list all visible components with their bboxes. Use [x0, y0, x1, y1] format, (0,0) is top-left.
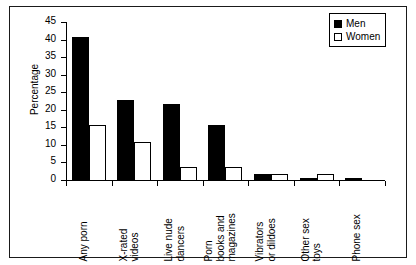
bar-group	[203, 22, 249, 181]
bar-group	[157, 22, 203, 181]
bar-women	[317, 174, 334, 181]
x-axis-label-line: Vibrators	[254, 222, 266, 262]
bar-men	[254, 174, 271, 181]
y-axis-tick-label: 40	[45, 33, 56, 44]
bar-men	[163, 104, 180, 181]
legend-label-men: Men	[346, 18, 365, 29]
y-axis-title-wrapper: Percentage	[12, 44, 34, 164]
y-axis-tick-label: 15	[45, 120, 56, 131]
x-axis-label-inner: Phone sex	[327, 188, 397, 254]
legend-item-men: Men	[334, 17, 380, 30]
y-axis-tick-label: 0	[50, 173, 56, 184]
legend-label-women: Women	[346, 31, 380, 42]
bar-women	[271, 174, 288, 181]
y-axis-tick-label: 35	[45, 50, 56, 61]
x-axis-tick-mark	[339, 181, 340, 186]
x-axis-tick-mark	[248, 181, 249, 186]
legend-item-women: Women	[334, 30, 380, 43]
bar-women	[180, 167, 197, 181]
bar-men	[117, 100, 134, 181]
x-axis-label-line: Phone sex	[351, 214, 363, 261]
y-axis-tick-label: 20	[45, 103, 56, 114]
y-axis-tick-label: 30	[45, 68, 56, 79]
x-axis-tick-mark	[203, 181, 204, 186]
chart-legend: Men Women	[329, 13, 386, 47]
y-axis-tick-label: 10	[45, 138, 56, 149]
x-axis-label-line: dancers	[174, 226, 186, 262]
bar-men	[208, 125, 225, 181]
bar-women	[134, 142, 151, 181]
bar-group	[66, 22, 112, 181]
x-axis-label: Phone sex	[327, 188, 397, 254]
y-axis-tick-label: 45	[45, 15, 56, 26]
x-axis-tick-mark	[157, 181, 158, 186]
x-axis-labels: Any pornX-ratedvideosLive nudedancersPor…	[66, 188, 385, 258]
x-axis-label-line: videos	[129, 233, 141, 262]
legend-swatch-men-icon	[334, 20, 342, 28]
y-axis-title: Percentage	[29, 30, 40, 150]
bar-men	[345, 178, 362, 182]
x-axis-label-line: or dildoes	[265, 218, 277, 261]
bar-men	[300, 178, 317, 182]
bar-chart-figure: Percentage 051015202530354045 Any pornX-…	[0, 0, 416, 265]
x-axis-label-line: Other sex	[299, 218, 311, 261]
bar-women	[89, 125, 106, 181]
x-axis-tick-mark	[112, 181, 113, 186]
x-axis-label-line: Any porn	[77, 221, 89, 261]
bar-women	[225, 167, 242, 181]
x-axis-tick-mark	[66, 181, 67, 186]
x-axis-label-line: toys	[311, 243, 323, 261]
y-axis-tick-label: 5	[50, 155, 56, 166]
bar-group	[248, 22, 294, 181]
x-axis-tick-mark	[294, 181, 295, 186]
x-axis-label-line: Porn	[203, 240, 215, 261]
x-axis-label-line: X-rated	[117, 229, 129, 262]
x-axis-tick-mark	[385, 181, 386, 186]
x-axis-label-line: books and	[214, 215, 226, 261]
y-axis-tick-label: 25	[45, 85, 56, 96]
bar-group	[112, 22, 158, 181]
x-axis-label-line: Live nude	[163, 218, 175, 261]
bar-men	[72, 37, 89, 181]
legend-swatch-women-icon	[334, 33, 342, 41]
